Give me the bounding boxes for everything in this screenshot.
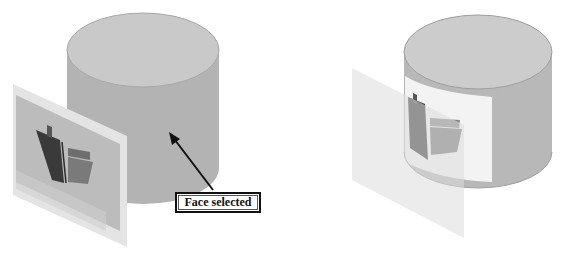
callout-inner-border [178, 195, 258, 210]
left-cylinder-top[interactable] [67, 13, 219, 87]
right-panel [352, 15, 552, 238]
diagram-canvas [0, 0, 567, 265]
right-cylinder-top[interactable] [404, 15, 552, 89]
face-selected-callout: Face selected [175, 192, 261, 213]
